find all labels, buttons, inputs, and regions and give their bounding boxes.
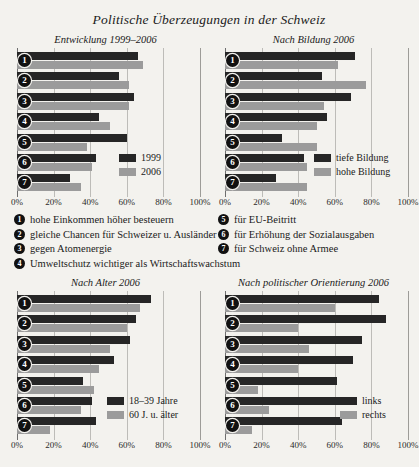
- category-bullet: 5: [18, 379, 31, 392]
- bar-series1: [225, 72, 322, 80]
- key-item: 3gegen Atomenergie: [14, 242, 240, 256]
- key-text: gleiche Chancen für Schweizer u. Ausländ…: [30, 228, 217, 241]
- bar-series2: [17, 61, 143, 69]
- key-bullet: 2: [14, 229, 25, 240]
- category-bullet: 1: [226, 297, 239, 310]
- bar-series1: [225, 377, 337, 385]
- key-column-right: 5für EU-Beitritt6für Erhöhung der Sozial…: [218, 213, 374, 257]
- bar-series1: [225, 315, 386, 323]
- x-tick-label: 80%: [155, 197, 172, 207]
- x-tick-label: 80%: [363, 197, 380, 207]
- x-tick-label: 100%: [398, 440, 419, 450]
- category-bullet: 6: [226, 399, 239, 412]
- gridline: [200, 291, 201, 440]
- key-item: 5für EU-Beitritt: [218, 213, 374, 227]
- key-item: 2gleiche Chancen für Schweizer u. Auslän…: [14, 228, 240, 242]
- legend-item[interactable]: rechts: [340, 409, 386, 420]
- key-text: für Erhöhung der Sozialausgaben: [234, 228, 374, 241]
- chart-title: Nach Bildung 2006: [211, 34, 416, 45]
- chart-legend: linksrechts: [340, 395, 386, 423]
- bar-series1: [225, 295, 379, 303]
- legend-label: 18–39 Jahre: [129, 395, 178, 406]
- legend-swatch-icon: [119, 154, 136, 162]
- gridline: [408, 48, 409, 197]
- legend-swatch-icon: [340, 411, 357, 419]
- bar-series1: [17, 134, 127, 142]
- x-axis: 0%20%40%60%80%100%: [225, 197, 417, 211]
- key-bullet: 1: [14, 214, 25, 225]
- key-item: 4Umweltschutz wichtiger als Wirtschaftsw…: [14, 257, 240, 271]
- category-bullet: 1: [226, 54, 239, 67]
- legend-item[interactable]: 18–39 Jahre: [107, 395, 178, 406]
- bar-series1: [225, 93, 351, 101]
- category-bullet: 5: [18, 136, 31, 149]
- x-tick-label: 0%: [219, 440, 231, 450]
- bar-series1: [225, 356, 353, 364]
- key-bullet: 4: [14, 258, 25, 269]
- plot-area: 1234567: [17, 50, 207, 195]
- x-tick-label: 40%: [82, 197, 99, 207]
- chart-panel-alter: Nach Alter 2006 1234567 0%20%40%60%80%10…: [3, 277, 208, 467]
- plot-bars: 1234567: [17, 50, 200, 195]
- legend-label: tiefe Bildung: [336, 152, 389, 163]
- legend-label: rechts: [362, 409, 386, 420]
- x-tick-label: 80%: [363, 440, 380, 450]
- plot-area: 1234567: [225, 293, 415, 438]
- key-bullet: 7: [218, 243, 229, 254]
- bar-series2: [17, 324, 127, 332]
- legend-label: links: [362, 395, 381, 406]
- chart-panel-bildung: Nach Bildung 2006 1234567 0%20%40%60%80%…: [211, 34, 416, 230]
- category-bullet: 6: [226, 156, 239, 169]
- x-axis: 0%20%40%60%80%100%: [17, 197, 209, 211]
- category-bullet: 1: [18, 297, 31, 310]
- bar-series1: [225, 113, 327, 121]
- legend-swatch-icon: [107, 411, 124, 419]
- x-tick-label: 100%: [190, 440, 211, 450]
- x-tick-label: 40%: [290, 197, 307, 207]
- category-bullet: 6: [18, 156, 31, 169]
- x-tick-label: 0%: [11, 197, 23, 207]
- page-title: Politische Überzeugungen in der Schweiz: [0, 12, 418, 28]
- x-tick-label: 40%: [82, 440, 99, 450]
- key-text: hohe Einkommen höher besteuern: [30, 213, 174, 226]
- x-tick-label: 20%: [253, 440, 270, 450]
- category-bullet: 3: [226, 95, 239, 108]
- key-item: 6für Erhöhung der Sozialausgaben: [218, 228, 374, 242]
- gridline: [163, 48, 164, 197]
- category-bullet: 3: [18, 95, 31, 108]
- legend-label: hohe Bildung: [336, 166, 390, 177]
- key-bullet: 6: [218, 229, 229, 240]
- x-tick-label: 20%: [45, 440, 62, 450]
- bar-series2: [225, 102, 324, 110]
- x-tick-label: 100%: [190, 197, 211, 207]
- x-tick-label: 60%: [327, 440, 344, 450]
- x-tick-label: 100%: [398, 197, 419, 207]
- key-text: Umweltschutz wichtiger als Wirtschaftswa…: [30, 257, 240, 270]
- category-bullet: 1: [18, 54, 31, 67]
- bar-series2: [17, 122, 110, 130]
- category-bullet: 5: [226, 136, 239, 149]
- chart-title: Nach Alter 2006: [3, 277, 208, 288]
- legend-swatch-icon: [314, 168, 331, 176]
- legend-item[interactable]: 1999: [119, 152, 161, 163]
- x-axis: 0%20%40%60%80%100%: [225, 440, 417, 454]
- x-tick-label: 20%: [45, 197, 62, 207]
- legend-item[interactable]: hohe Bildung: [314, 166, 390, 177]
- bar-series1: [17, 93, 134, 101]
- bar-series2: [17, 102, 129, 110]
- bar-series1: [17, 336, 130, 344]
- legend-item[interactable]: 2006: [119, 166, 161, 177]
- x-tick-label: 0%: [11, 440, 23, 450]
- bar-series2: [225, 61, 338, 69]
- x-tick-label: 40%: [290, 440, 307, 450]
- legend-item[interactable]: tiefe Bildung: [314, 152, 390, 163]
- x-tick-label: 60%: [119, 440, 136, 450]
- x-tick-label: 60%: [327, 197, 344, 207]
- legend-label: 2006: [141, 166, 161, 177]
- chart-title: Entwicklung 1999–2006: [3, 34, 208, 45]
- legend-item[interactable]: links: [340, 395, 386, 406]
- legend-item[interactable]: 60 J. u. älter: [107, 409, 178, 420]
- bar-series2: [17, 345, 110, 353]
- key-item: 1hohe Einkommen höher besteuern: [14, 213, 240, 227]
- key-bullet: 5: [218, 214, 229, 225]
